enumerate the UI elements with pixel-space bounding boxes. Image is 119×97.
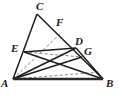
vertex-label-A: A	[1, 78, 8, 89]
vertex-label-C: C	[36, 1, 43, 12]
vertex-label-E: E	[11, 43, 18, 54]
geometry-figure: C F E D G A B	[0, 0, 119, 97]
vertex-label-G: G	[84, 46, 92, 57]
segment-A-F-dashed	[13, 32, 62, 79]
vertex-label-D: D	[75, 36, 83, 47]
vertex-label-F: F	[56, 17, 63, 28]
vertex-label-B: B	[106, 78, 113, 89]
